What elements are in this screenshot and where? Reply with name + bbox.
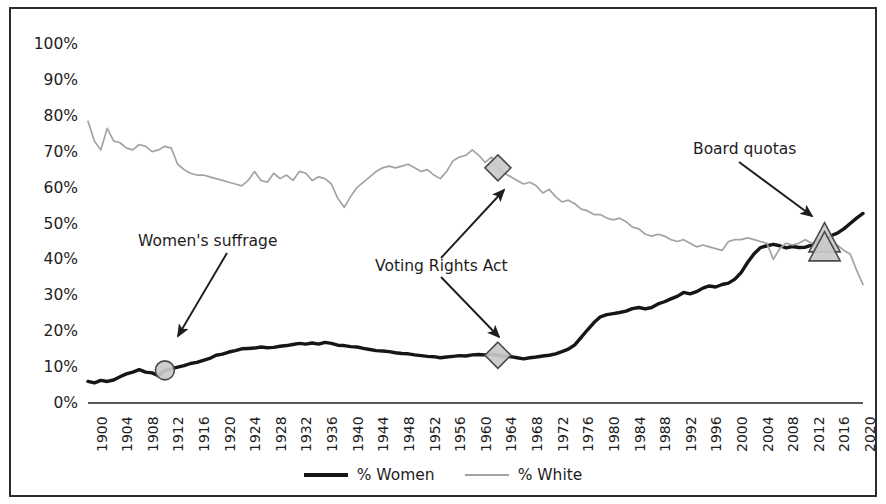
y-tick-label-70: 70% [16, 143, 78, 161]
x-tick-label-1952: 1952 [427, 416, 443, 452]
x-tick-label-1988: 1988 [657, 416, 673, 452]
annotation-arrow-board-quotas [739, 162, 812, 216]
x-tick-label-1908: 1908 [145, 416, 161, 452]
x-tick-label-1916: 1916 [196, 416, 212, 452]
x-tick-label-1980: 1980 [606, 416, 622, 452]
x-tick-label-1936: 1936 [324, 416, 340, 452]
x-tick-label-1912: 1912 [170, 416, 186, 452]
chart-container: 0%10%20%30%40%50%60%70%80%90%100% 190019… [0, 0, 886, 504]
x-tick-label-1996: 1996 [708, 416, 724, 452]
x-tick-label-1920: 1920 [222, 416, 238, 452]
annotation-arrow-womens-suffrage [178, 253, 227, 336]
x-tick-label-1928: 1928 [273, 416, 289, 452]
x-tick-label-2012: 2012 [811, 416, 827, 452]
x-tick-label-1940: 1940 [350, 416, 366, 452]
annotation-label-womens-suffrage: Women's suffrage [138, 232, 277, 250]
x-tick-label-1900: 1900 [94, 416, 110, 452]
x-tick-label-2008: 2008 [785, 416, 801, 452]
annotation-arrow-voting-rights-act-white [441, 190, 504, 258]
x-tick-label-2020: 2020 [862, 416, 878, 452]
y-tick-label-100: 100% [16, 35, 78, 53]
y-tick-label-60: 60% [16, 179, 78, 197]
chart-legend: % Women % White [0, 466, 886, 484]
x-tick-label-1984: 1984 [632, 416, 648, 452]
x-tick-label-2004: 2004 [760, 416, 776, 452]
x-tick-label-1968: 1968 [529, 416, 545, 452]
marker-diamond-women-1964 [485, 342, 511, 368]
annotation-arrow-voting-rights-act-women [441, 277, 499, 337]
x-tick-label-2000: 2000 [734, 416, 750, 452]
x-tick-label-1992: 1992 [683, 416, 699, 452]
x-tick-label-1904: 1904 [119, 416, 135, 452]
x-tick-label-1960: 1960 [478, 416, 494, 452]
annotation-label-voting-rights-act: Voting Rights Act [375, 257, 508, 275]
legend-label-women: % Women [357, 466, 435, 484]
legend-label-white: % White [518, 466, 583, 484]
y-tick-label-80: 80% [16, 107, 78, 125]
x-tick-label-1944: 1944 [375, 416, 391, 452]
y-tick-label-0: 0% [16, 394, 78, 412]
x-tick-label-2016: 2016 [836, 416, 852, 452]
x-tick-label-1972: 1972 [555, 416, 571, 452]
x-tick-label-1956: 1956 [452, 416, 468, 452]
legend-swatch-white-icon [465, 474, 509, 476]
x-tick-label-1948: 1948 [401, 416, 417, 452]
y-tick-label-90: 90% [16, 71, 78, 89]
x-tick-label-1964: 1964 [503, 416, 519, 452]
x-tick-label-1976: 1976 [580, 416, 596, 452]
annotation-label-board-quotas: Board quotas [693, 140, 796, 158]
y-tick-label-20: 20% [16, 322, 78, 340]
x-tick-label-1924: 1924 [247, 416, 263, 452]
y-tick-label-30: 30% [16, 286, 78, 304]
y-tick-label-50: 50% [16, 215, 78, 233]
legend-item-white[interactable]: % White [465, 466, 583, 484]
y-tick-label-40: 40% [16, 250, 78, 268]
legend-item-women[interactable]: % Women [304, 466, 435, 484]
legend-swatch-women-icon [304, 473, 348, 477]
y-tick-label-10: 10% [16, 358, 78, 376]
x-tick-label-1932: 1932 [298, 416, 314, 452]
marker-circle-women-1912 [155, 361, 174, 380]
